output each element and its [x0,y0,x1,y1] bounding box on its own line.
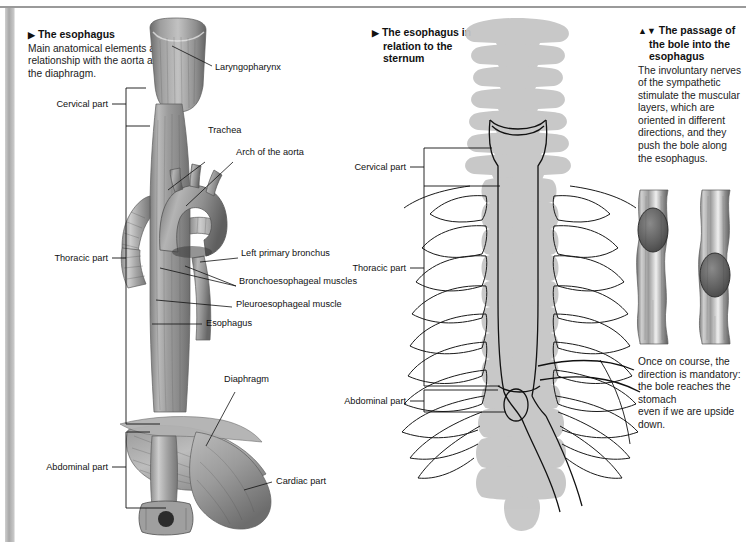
panel-bole-caption: Once on course, the direction is mandato… [638,356,742,432]
bole-illustration [0,0,746,542]
bole-diagram-lower [699,190,730,344]
panel-bole-caption-line1: Once on course, the direction is mandato… [638,356,741,405]
panel-bole-caption-line2: even if we are upside down. [638,406,734,430]
bole-diagram-upper [637,190,668,344]
leader-line-right-caption [600,360,630,444]
page-root: ▶ The esophagus Main anatomical elements… [0,0,746,542]
